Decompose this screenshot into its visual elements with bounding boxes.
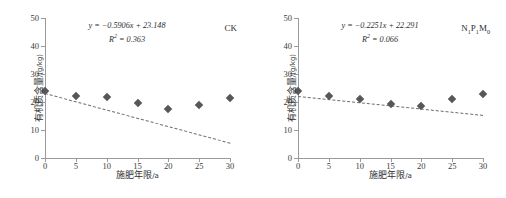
data-point xyxy=(102,93,110,101)
panel-ck: y = −0.5906x + 23.148 R2 = 0.363 CK 0102… xyxy=(0,0,253,198)
data-point xyxy=(448,95,456,103)
y-tick xyxy=(41,18,45,19)
y-tick-label: 50 xyxy=(31,13,40,23)
y-axis-title: 有机质含量/(g/kg) xyxy=(32,54,45,122)
data-point xyxy=(226,94,234,102)
plot-area-ck: 01020304050 051015202530 xyxy=(45,18,230,158)
y-tick xyxy=(41,46,45,47)
data-point xyxy=(72,92,80,100)
data-point xyxy=(164,105,172,113)
data-point xyxy=(386,100,394,108)
data-point xyxy=(133,99,141,107)
x-axis-title: 施肥年限/a xyxy=(298,168,483,181)
y-axis-title: 有机质含量/(g/kg) xyxy=(285,54,298,122)
y-tick-label: 10 xyxy=(31,125,40,135)
y-tick-label: 0 xyxy=(35,153,39,163)
y-tick xyxy=(294,46,298,47)
y-tick-label: 50 xyxy=(284,13,293,23)
y-tick-label: 0 xyxy=(288,153,292,163)
x-axis-title: 施肥年限/a xyxy=(45,168,230,181)
y-tick-label: 40 xyxy=(284,41,293,51)
data-point xyxy=(479,89,487,97)
figure-two-panel-scatter: y = −0.5906x + 23.148 R2 = 0.363 CK 0102… xyxy=(0,0,506,198)
y-tick-label: 40 xyxy=(31,41,40,51)
panel-n1p1m0: y = −0.2251x + 22.291 R2 = 0.066 N1P1M0 … xyxy=(253,0,506,198)
y-tick xyxy=(294,130,298,131)
y-tick-label: 10 xyxy=(284,125,293,135)
y-tick xyxy=(41,130,45,131)
plot-area-n1p1m0: 01020304050 051015202530 xyxy=(298,18,483,158)
data-point xyxy=(195,100,203,108)
y-tick xyxy=(294,18,298,19)
